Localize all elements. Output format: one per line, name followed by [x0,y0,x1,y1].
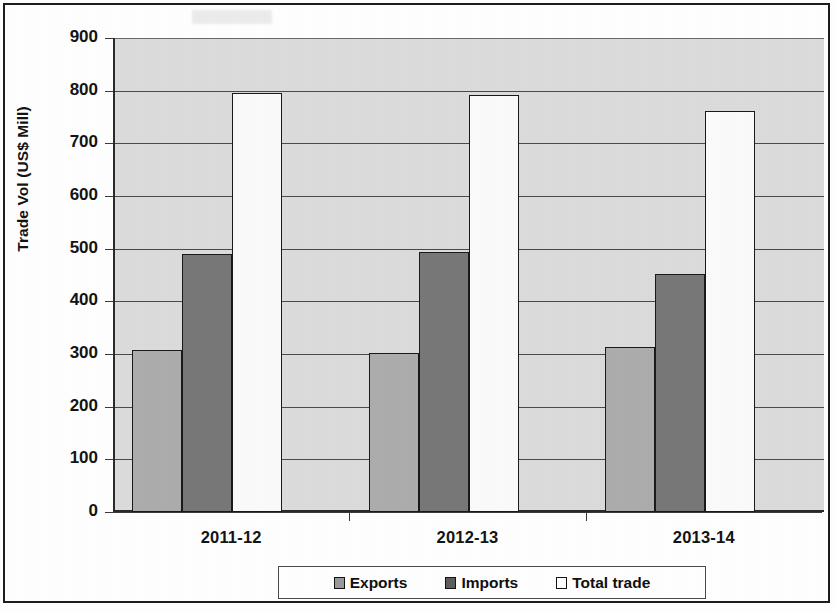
y-tick-label-100: 100 [0,448,98,468]
bar-imports-2011-12 [182,254,232,512]
y-tick-mark-700 [105,143,113,144]
legend-label-imports: Imports [461,574,518,592]
bar-chart: Trade Vol (US$ Mill) 0100200300400500600… [0,0,835,611]
chart-legend: Exports Imports Total trade [278,566,706,599]
bar-total-trade-2013-14 [705,111,755,512]
total-trade-swatch-icon [556,577,567,589]
y-tick-mark-300 [105,354,113,355]
y-tick-mark-900 [105,38,113,39]
imports-swatch-icon [445,577,456,589]
y-tick-label-900: 900 [0,27,98,47]
y-tick-mark-800 [105,91,113,92]
y-tick-label-0: 0 [0,501,98,521]
y-tick-mark-200 [105,407,113,408]
y-tick-label-300: 300 [0,343,98,363]
x-axis-line [113,512,822,513]
bar-exports-2012-13 [369,353,419,512]
y-tick-mark-600 [105,196,113,197]
gridline-800 [115,91,824,92]
plot-area [113,38,824,512]
y-tick-label-500: 500 [0,238,98,258]
legend-item-imports: Imports [445,574,518,592]
bar-total-trade-2012-13 [469,95,519,512]
x-tick-label-2013-14: 2013-14 [586,528,822,547]
bar-imports-2013-14 [655,274,705,512]
x-axis-separator-1 [349,512,350,521]
legend-item-total-trade: Total trade [556,574,650,592]
y-tick-mark-0 [105,512,113,513]
y-tick-label-700: 700 [0,132,98,152]
exports-swatch-icon [334,577,345,589]
y-tick-label-600: 600 [0,185,98,205]
y-tick-label-800: 800 [0,80,98,100]
bar-exports-2011-12 [132,350,182,512]
y-tick-label-200: 200 [0,396,98,416]
legend-label-total-trade: Total trade [572,574,650,592]
x-tick-label-2012-13: 2012-13 [349,528,585,547]
y-tick-label-400: 400 [0,290,98,310]
legend-label-exports: Exports [350,574,408,592]
x-tick-label-2011-12: 2011-12 [113,528,349,547]
x-axis-separator-2 [586,512,587,521]
y-tick-mark-500 [105,249,113,250]
gridline-900 [115,38,824,39]
y-tick-mark-100 [105,459,113,460]
y-tick-mark-400 [105,301,113,302]
legend-item-exports: Exports [334,574,408,592]
bar-imports-2012-13 [419,252,469,512]
bar-exports-2013-14 [605,347,655,512]
bar-total-trade-2011-12 [232,93,282,512]
